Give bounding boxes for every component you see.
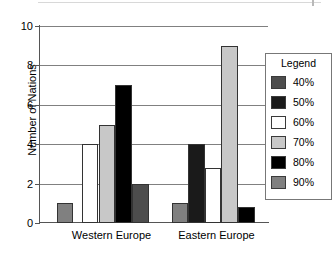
legend-swatch-icon — [271, 156, 286, 169]
bar — [132, 184, 149, 223]
legend-item-label: 80% — [293, 156, 314, 168]
bar — [57, 203, 73, 223]
legend-item[interactable]: 70% — [266, 132, 331, 152]
legend-item-label: 70% — [293, 136, 314, 148]
legend-title: Legend — [266, 57, 331, 70]
bar — [99, 125, 115, 224]
y-axis-tick-label: 6 — [27, 100, 33, 111]
x-axis-group-label: Eastern Europe — [164, 229, 269, 241]
y-axis-tick — [35, 144, 40, 145]
title-tick-mark — [312, 0, 314, 6]
bar — [188, 144, 205, 223]
y-axis-tick — [35, 184, 40, 185]
y-axis-tick-label: 8 — [27, 60, 33, 71]
bar — [238, 207, 255, 223]
y-axis-tick — [35, 105, 40, 106]
legend-item-label: 50% — [293, 96, 314, 108]
legend-item-label: 60% — [293, 116, 314, 128]
bar — [205, 168, 221, 223]
y-axis-tick — [35, 26, 40, 27]
legend-item-label: 90% — [293, 176, 314, 188]
title-divider — [38, 2, 321, 3]
x-axis-group-label: Western Europe — [59, 229, 164, 241]
bar — [115, 85, 132, 223]
legend-item-label: 40% — [293, 76, 314, 88]
y-axis-tick-label: 2 — [27, 179, 33, 190]
bar-chart: Number of Nations 0246810 Western Europe… — [0, 0, 336, 260]
legend-item[interactable]: 90% — [266, 172, 331, 192]
plot-area: 0246810 — [39, 26, 268, 223]
legend-item[interactable]: 50% — [266, 92, 331, 112]
legend-swatch-icon — [271, 76, 286, 89]
legend-swatch-icon — [271, 116, 286, 129]
bar — [82, 144, 98, 223]
gridline — [39, 26, 268, 27]
legend: Legend 40%50%60%70%80%90% — [265, 53, 332, 200]
legend-swatch-icon — [271, 136, 286, 149]
legend-item[interactable]: 60% — [266, 112, 331, 132]
y-axis-tick — [35, 223, 40, 224]
legend-entries: 40%50%60%70%80%90% — [266, 72, 331, 192]
legend-item[interactable]: 40% — [266, 72, 331, 92]
legend-item[interactable]: 80% — [266, 152, 331, 172]
y-axis-tick-label: 0 — [27, 218, 33, 229]
y-axis-tick — [35, 65, 40, 66]
legend-swatch-icon — [271, 176, 286, 189]
y-axis-tick-label: 10 — [21, 21, 33, 32]
bar — [172, 203, 188, 223]
legend-swatch-icon — [271, 96, 286, 109]
y-axis-tick-label: 4 — [27, 139, 33, 150]
bar — [221, 46, 238, 223]
